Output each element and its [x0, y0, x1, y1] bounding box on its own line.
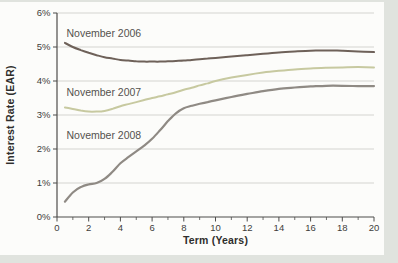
- series-label-november-2007: November 2007: [67, 86, 142, 98]
- series-label-november-2006: November 2006: [67, 27, 142, 39]
- x-tick-label: 6: [149, 222, 154, 233]
- x-tick-label: 2: [86, 222, 91, 233]
- y-tick-label: 5%: [37, 41, 51, 52]
- y-axis-title: Interest Rate (EAR): [4, 45, 18, 185]
- y-tick-label: 0%: [37, 211, 51, 222]
- x-tick-label: 0: [54, 222, 59, 233]
- x-tick-label: 10: [210, 222, 221, 233]
- y-tick-label: 6%: [37, 7, 51, 18]
- x-tick-label: 20: [369, 222, 380, 233]
- y-tick-label: 2%: [37, 143, 51, 154]
- y-tick-label: 4%: [37, 75, 51, 86]
- x-tick-label: 16: [305, 222, 316, 233]
- series-line-november-2008: [65, 86, 374, 202]
- y-tick-label: 3%: [37, 109, 51, 120]
- series-line-november-2006: [65, 43, 374, 62]
- x-tick-label: 14: [274, 222, 285, 233]
- x-axis-title: Term (Years): [57, 234, 374, 246]
- x-tick-label: 8: [181, 222, 186, 233]
- x-tick-label: 12: [242, 222, 253, 233]
- x-tick-label: 18: [337, 222, 348, 233]
- x-tick-label: 4: [118, 222, 123, 233]
- yield-curve-chart: 0%1%2%3%4%5%6%02468101214161820November …: [0, 0, 398, 263]
- y-tick-label: 1%: [37, 177, 51, 188]
- series-label-november-2008: November 2008: [67, 129, 142, 141]
- scanned-chart-page: 0%1%2%3%4%5%6%02468101214161820November …: [0, 0, 398, 263]
